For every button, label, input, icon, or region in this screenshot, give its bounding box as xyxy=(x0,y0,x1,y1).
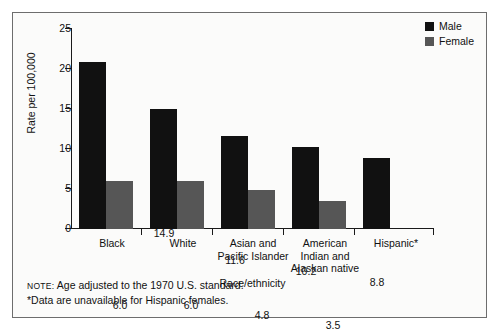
legend-item-male: Male xyxy=(425,20,474,32)
bar-male-white[interactable] xyxy=(150,109,177,229)
y-tick-label-10: 10 xyxy=(31,143,71,154)
figure-notes: NOTE: Age adjusted to the 1970 U.S. stan… xyxy=(27,279,244,307)
bar-male-asian-pacific-islander[interactable] xyxy=(221,136,248,229)
note-line-1: NOTE: Age adjusted to the 1970 U.S. stan… xyxy=(27,279,244,294)
x-tick-mark-1 xyxy=(141,229,142,235)
bar-male-american-indian-alaskan-native[interactable] xyxy=(292,147,319,229)
y-tick-label-25: 25 xyxy=(31,23,71,34)
x-tick-mark-3 xyxy=(283,229,284,235)
y-axis-title: Rate per 100,000 xyxy=(25,33,37,153)
bar-value-female-american-indian-alaskan-native: 3.5 xyxy=(316,320,350,331)
bar-value-male-black: 20.8 xyxy=(76,181,110,192)
x-tick-mark-4 xyxy=(354,229,355,235)
bar-female-white[interactable] xyxy=(177,181,204,229)
bar-female-american-indian-alaskan-native[interactable] xyxy=(319,201,346,229)
legend-swatch-female-icon xyxy=(425,37,434,46)
y-tick-label-20: 20 xyxy=(31,63,71,74)
legend-label-female: Female xyxy=(439,35,474,47)
legend-label-male: Male xyxy=(439,20,462,32)
legend-item-female: Female xyxy=(425,35,474,47)
y-tick-label-0: 0 xyxy=(31,223,71,234)
bar-male-black[interactable] xyxy=(79,62,106,229)
chart-legend: Male Female xyxy=(425,20,474,50)
bar-male-hispanic[interactable] xyxy=(363,158,390,229)
y-tick-label-5: 5 xyxy=(31,183,71,194)
x-tick-mark-5 xyxy=(433,229,434,235)
x-category-label-hispanic: Hispanic* xyxy=(356,237,436,250)
note-tag: NOTE: xyxy=(27,281,54,291)
y-axis-ticks: 25 20 15 10 5 0 Rate per 100,000 xyxy=(13,13,71,245)
x-category-label-black: Black xyxy=(72,237,152,250)
bar-value-female-asian-pacific-islander: 4.8 xyxy=(245,310,279,321)
y-axis-line xyxy=(71,28,72,229)
figure-frame: Male Female 25 20 15 10 5 0 Rate per 100… xyxy=(12,12,487,318)
y-tick-label-15: 15 xyxy=(31,103,71,114)
x-category-label-american-indian-alaskan-native: American Indian and Alaskan native xyxy=(283,237,367,275)
bar-female-asian-pacific-islander[interactable] xyxy=(248,190,275,229)
x-tick-mark-2 xyxy=(212,229,213,235)
bar-female-black[interactable] xyxy=(106,181,133,229)
legend-swatch-male-icon xyxy=(425,22,434,31)
note-text-1: Age adjusted to the 1970 U.S. standard. xyxy=(54,279,243,291)
note-line-2: *Data are unavailable for Hispanic femal… xyxy=(27,294,244,308)
